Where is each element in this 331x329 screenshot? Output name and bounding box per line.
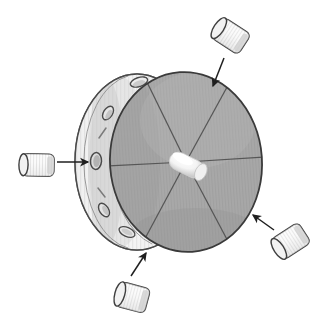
- insert-end-cap-left: [19, 154, 29, 176]
- rim-hole-left: [90, 152, 102, 170]
- figure-root: A shaded three-dimensional drum seen at …: [0, 0, 331, 329]
- drum-insert-diagram: [0, 0, 331, 329]
- cylindrical-insert-left: [19, 154, 54, 177]
